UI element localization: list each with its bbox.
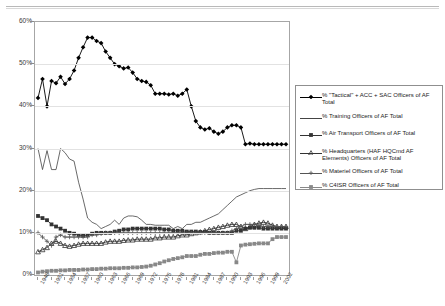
data-point xyxy=(162,260,166,264)
data-point xyxy=(126,266,130,270)
gridline xyxy=(35,191,289,192)
data-point xyxy=(198,253,202,257)
data-point xyxy=(158,227,162,231)
legend-marker-icon xyxy=(300,93,322,101)
data-point xyxy=(63,268,67,272)
legend-item[interactable]: % Headquarters (HAF HQCmd AF Elements) O… xyxy=(300,148,442,162)
data-point xyxy=(113,266,117,270)
data-point xyxy=(85,35,90,40)
legend-item[interactable]: % Materiel Officers of AF Total xyxy=(300,168,442,177)
data-point xyxy=(309,185,313,189)
x-axis-tick-mark xyxy=(213,277,214,280)
data-point xyxy=(216,131,221,136)
legend-item[interactable]: % "Tactical" + ACC + SAC Officers of AF … xyxy=(300,92,442,106)
data-point xyxy=(309,171,313,175)
chart-legend: % "Tactical" + ACC + SAC Officers of AF … xyxy=(295,85,443,190)
data-point xyxy=(95,267,99,271)
x-axis-tick-mark xyxy=(280,277,281,280)
legend-item[interactable]: % Air Transport Officers of AF Total xyxy=(300,130,442,139)
data-point xyxy=(271,237,275,241)
data-point xyxy=(261,142,266,147)
legend-marker-icon xyxy=(300,169,322,177)
data-point xyxy=(59,227,63,231)
y-axis-tick-label: 10% xyxy=(4,228,32,235)
data-point xyxy=(171,91,176,96)
data-point xyxy=(239,244,243,248)
data-point xyxy=(153,91,158,96)
data-point xyxy=(162,91,167,96)
data-point xyxy=(41,216,45,220)
data-point xyxy=(144,265,148,269)
legend-marker-icon xyxy=(300,131,322,139)
x-axis-tick-mark xyxy=(253,277,254,280)
legend-marker-icon xyxy=(300,183,322,191)
x-axis-tick-mark xyxy=(37,277,38,280)
data-point xyxy=(203,252,207,256)
data-point xyxy=(275,142,280,147)
y-axis-tick-label: 30% xyxy=(4,144,32,151)
data-point xyxy=(135,227,139,231)
legend-label: % Materiel Officers of AF Total xyxy=(322,168,402,175)
data-point xyxy=(279,142,284,147)
data-point xyxy=(140,227,144,231)
data-point xyxy=(243,142,248,147)
data-point xyxy=(90,267,94,271)
data-point xyxy=(171,257,175,261)
data-point xyxy=(149,227,153,231)
data-point xyxy=(207,252,211,256)
data-point xyxy=(230,123,235,128)
x-axis-labels: 1948195119541957196019631966196919721975… xyxy=(34,277,296,306)
series-0 xyxy=(36,35,289,146)
data-point xyxy=(257,142,262,147)
y-axis-tick-label: 20% xyxy=(4,186,32,193)
data-point xyxy=(185,254,189,258)
data-point xyxy=(72,68,77,73)
data-point xyxy=(266,241,270,245)
data-point xyxy=(212,251,216,255)
y-axis-tick-label: 50% xyxy=(4,59,32,66)
data-point xyxy=(50,269,54,273)
legend-item[interactable]: % Training Officers of AF Total xyxy=(300,113,442,122)
data-point xyxy=(221,251,225,255)
gridline xyxy=(35,106,289,107)
data-point xyxy=(104,267,108,271)
data-point xyxy=(284,235,288,239)
legend-marker-icon xyxy=(300,149,322,157)
data-point xyxy=(99,41,104,46)
x-axis-tick-mark xyxy=(132,277,133,280)
data-point xyxy=(135,266,139,270)
x-axis-tick-mark xyxy=(51,277,52,280)
legend-label: % Headquarters (HAF HQCmd AF Elements) O… xyxy=(322,148,442,162)
data-point xyxy=(121,66,126,71)
data-point xyxy=(248,242,252,246)
data-point xyxy=(175,93,180,98)
data-point xyxy=(50,223,54,227)
data-point xyxy=(194,254,198,258)
x-axis-tick-mark xyxy=(240,277,241,280)
x-axis-tick-mark xyxy=(105,277,106,280)
data-point xyxy=(131,266,135,270)
x-axis-tick-mark xyxy=(186,277,187,280)
x-axis-tick-mark xyxy=(91,277,92,280)
data-point xyxy=(77,268,81,272)
series-line xyxy=(38,149,286,229)
gridline xyxy=(35,233,289,234)
data-point xyxy=(239,224,243,228)
data-point xyxy=(40,77,45,82)
data-point xyxy=(257,241,261,245)
data-point xyxy=(153,227,157,231)
data-point xyxy=(243,222,247,226)
data-point xyxy=(248,141,253,146)
data-point xyxy=(36,96,41,101)
data-point xyxy=(158,261,162,265)
data-point xyxy=(108,266,112,270)
legend-item[interactable]: % C4ISR Officers of AF Total xyxy=(300,182,442,191)
data-point xyxy=(230,250,234,254)
data-point xyxy=(176,256,180,260)
x-axis-tick-mark xyxy=(159,277,160,280)
y-axis-tick-label: 60% xyxy=(4,17,32,24)
data-point xyxy=(122,266,126,270)
y-axis-tick-label: 0% xyxy=(4,270,32,277)
data-point xyxy=(157,91,162,96)
x-axis-tick-mark xyxy=(267,277,268,280)
